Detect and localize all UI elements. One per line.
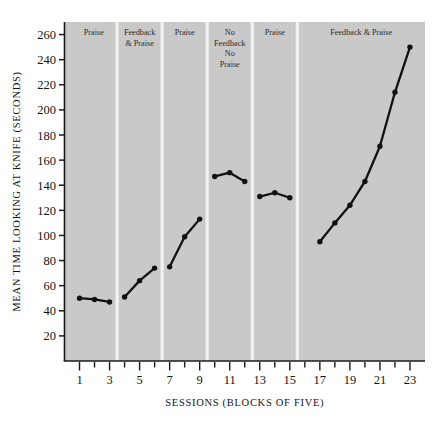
phase-divider [206,22,209,361]
y-tick-label: 160 [37,154,56,168]
y-tick-label: 200 [37,103,56,117]
y-tick-label: 80 [44,254,57,268]
data-point-marker [107,299,112,304]
y-tick-label: 180 [37,129,56,143]
chart-figure: PraiseFeedback& PraisePraiseNoFeedbackNo… [0,0,442,434]
y-tick-label: 260 [37,28,56,42]
x-tick-label: 5 [136,373,142,387]
y-tick-label: 240 [37,53,56,67]
x-tick-label: 13 [254,373,267,387]
phase-label: Praise [84,28,104,37]
data-point-marker [92,297,97,302]
data-point-marker [407,44,412,49]
y-axis-ticks-group: 20406080100120140160180200220240260 [37,28,64,343]
data-point-marker [362,179,367,184]
data-point-marker [257,194,262,199]
data-point-marker [137,278,142,283]
y-axis-title: MEAN TIME LOOKING AT KNIFE (SECONDS) [11,71,23,311]
data-point-marker [167,264,172,269]
data-point-marker [182,234,187,239]
data-point-marker [77,296,82,301]
phase-label: & Praise [125,39,154,48]
x-tick-label: 23 [404,373,417,387]
data-point-marker [317,239,322,244]
x-axis-ticks-group: 1357911131517192123 [76,362,416,387]
data-point-marker [287,195,292,200]
data-point-marker [122,294,127,299]
y-tick-label: 220 [37,78,56,92]
phase-divider [115,22,118,361]
x-tick-label: 7 [167,373,173,387]
data-point-marker [197,216,202,221]
y-tick-label: 40 [44,304,57,318]
data-point-marker [242,179,247,184]
y-tick-label: 20 [44,329,57,343]
data-point-marker [212,174,217,179]
data-point-marker [227,170,232,175]
y-tick-label: 60 [44,279,57,293]
phase-label: Praise [265,28,285,37]
y-tick-label: 100 [37,229,56,243]
data-point-marker [392,90,397,95]
data-point-marker [332,220,337,225]
line-chart: PraiseFeedback& PraisePraiseNoFeedbackNo… [0,0,442,434]
x-tick-label: 17 [314,373,327,387]
data-point-marker [152,265,157,270]
phase-label: Feedback [214,39,246,48]
x-tick-label: 9 [197,373,203,387]
phase-divider [251,22,254,361]
y-tick-label: 120 [37,204,56,218]
x-tick-label: 21 [374,373,387,387]
x-tick-label: 1 [76,373,82,387]
phase-label: No [225,49,235,58]
phase-label: Praise [175,28,195,37]
data-point-marker [347,203,352,208]
data-point-marker [377,144,382,149]
x-tick-label: 11 [224,373,236,387]
x-tick-label: 3 [106,373,112,387]
phase-divider [296,22,299,361]
phase-label: No [225,28,235,37]
y-tick-label: 140 [37,179,56,193]
x-tick-label: 15 [284,373,297,387]
x-axis-title: SESSIONS (BLOCKS OF FIVE) [165,397,324,409]
phase-label: Praise [220,60,240,69]
data-point-marker [272,190,277,195]
phase-label: Feedback [124,28,156,37]
phase-divider [161,22,164,361]
x-tick-label: 19 [344,373,357,387]
phase-label: Feedback & Praise [330,28,392,37]
